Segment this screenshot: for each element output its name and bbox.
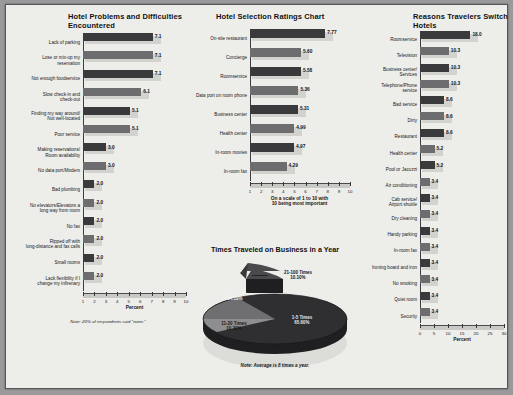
bar-track: 8.6 (420, 96, 505, 112)
bar-fill (83, 217, 94, 225)
bar-fill (420, 210, 430, 218)
bar-track: 3.4 (420, 275, 505, 291)
bar-value-label: 3.4 (432, 260, 439, 265)
bar-fill (250, 86, 298, 95)
x-axis-hotel-selection: 12345678910 (250, 183, 350, 188)
bar-value-label: 3.4 (432, 195, 439, 200)
bar-fill (420, 31, 470, 39)
bar-category-label: Dirty (358, 118, 420, 123)
axis-tick-label: 7 (150, 299, 152, 304)
bar-value-label: 2.0 (96, 200, 103, 205)
bar-value-label: 8.6 (446, 97, 453, 102)
bar-track: 5.31 (250, 105, 354, 124)
bar-category-label: Lack flexibility if I change my infirena… (10, 276, 83, 286)
bar-fill (83, 143, 106, 151)
bar-group-hotel-problems: Lack of parking7.1Lose or mix-up my rese… (10, 33, 188, 290)
bar-track: 8.6 (420, 112, 505, 128)
bar-fill (420, 145, 435, 153)
bar-value-label: 10.3 (451, 81, 460, 86)
x-axis-title-hotel-problems: Percent (83, 305, 186, 310)
bar-fill (83, 88, 141, 96)
bar-row: Lack flexibility if I change my infirena… (10, 272, 188, 290)
axis-tick (175, 292, 176, 296)
axis-tick (94, 292, 95, 296)
bar-value-label: 10.3 (451, 48, 460, 53)
bar-category-label: Bad plumbing (10, 187, 83, 192)
axis-tick-label: 20 (474, 331, 479, 336)
bar-row: Data port on room phone5.36 (192, 86, 354, 105)
bar-value-label: 8.6 (446, 114, 453, 119)
bar-row: In-room movies4.97 (192, 143, 354, 162)
axis-tick (129, 292, 130, 296)
bar-value-label: 7.1 (155, 34, 162, 39)
bar-value-label: 3.4 (432, 211, 439, 216)
bar-track: 2.0 (83, 272, 188, 290)
bar-category-label: Health center (192, 131, 250, 136)
bar-row: Security3.4 (358, 308, 505, 324)
axis-tick-label: 5 (128, 299, 130, 304)
bar-category-label: Business center (192, 112, 250, 117)
axis-tick-label: 1 (82, 299, 84, 304)
axis-tick (317, 182, 318, 186)
axis-tick-label: 5 (433, 331, 435, 336)
bar-row: Pool or Jacuzzi5.2 (358, 161, 505, 177)
axis-tick-label: 4 (116, 299, 118, 304)
axis-tick (140, 292, 141, 296)
bar-track: 10.3 (420, 64, 505, 80)
bar-fill (420, 308, 430, 316)
bar-track: 2.0 (83, 199, 188, 217)
bar-fill (83, 162, 106, 170)
bar-fill (250, 162, 287, 171)
bar-value-label: 3.4 (432, 244, 439, 249)
axis-tick (83, 292, 84, 296)
bar-row: Telephone/Phone service10.3 (358, 80, 505, 96)
bar-value-label: 7.1 (155, 71, 162, 76)
bar-row: No elevators/Elevators a long way from r… (10, 199, 188, 217)
bar-fill (420, 243, 430, 251)
bar-row: Dry cleaning3.4 (358, 210, 505, 226)
bar-row: Concierge5.60 (192, 48, 354, 67)
axis-tick-label: 8 (162, 299, 164, 304)
bar-category-label: Restaurant (358, 134, 420, 139)
screenshot-root: Hotel Problems and Difficulties Encounte… (0, 0, 513, 395)
bar-track: 8.6 (420, 129, 505, 145)
bar-value-label: 4.97 (296, 144, 305, 149)
axis-tick (490, 324, 491, 328)
x-axis-reasons-switch: 051015202530 (420, 325, 504, 330)
bar-row: Restaurant8.6 (358, 129, 505, 145)
bar-category-label: Lack of parking (10, 40, 83, 45)
bar-category-label: Data port on room phone (192, 93, 250, 98)
bar-category-label: Pool or Jacuzzi (358, 167, 420, 172)
bar-fill (250, 143, 294, 152)
bar-category-label: Health center (358, 151, 420, 156)
bar-category-label: Concierge (192, 55, 250, 60)
axis-tick (272, 182, 273, 186)
bar-category-label: Handy parking (358, 232, 420, 237)
bar-value-label: 2.0 (96, 218, 103, 223)
bar-category-label: Not enough foodservice (10, 76, 83, 81)
chart-title-times-traveled: Times Traveled on Business in a Year (192, 245, 358, 254)
bar-row: Lack of parking7.1 (10, 33, 188, 51)
axis-tick-label: 3 (105, 299, 107, 304)
bar-category-label: Poor service (10, 132, 83, 137)
bar-track: 7.77 (250, 29, 354, 48)
bar-row: Small rooms2.0 (10, 254, 188, 272)
axis-tick-label: 5 (293, 189, 295, 194)
bar-track: 4.99 (250, 124, 354, 143)
bar-fill (250, 29, 325, 38)
bar-track: 5.1 (83, 125, 188, 143)
bar-value-label: 4.99 (296, 125, 305, 130)
pie-label-11-20-times: 11-20 Times10.20% (206, 321, 262, 331)
bar-track: 4.29 (250, 162, 354, 181)
bar-track: 3.0 (83, 143, 188, 161)
bar-fill (420, 194, 430, 202)
bar-category-label: Roomservice (358, 37, 420, 42)
bar-row: No smoking3.4 (358, 275, 505, 291)
bar-category-label: Ironing board and iron (358, 265, 420, 270)
bar-row: Air conditioning3.4 (358, 178, 505, 194)
bar-value-label: 5.60 (303, 49, 312, 54)
bar-row: Business center5.31 (192, 105, 354, 124)
bar-category-label: Dry cleaning (358, 216, 420, 221)
bar-category-label: Making reservations/ Room availability (10, 147, 83, 157)
bar-fill (420, 275, 430, 283)
